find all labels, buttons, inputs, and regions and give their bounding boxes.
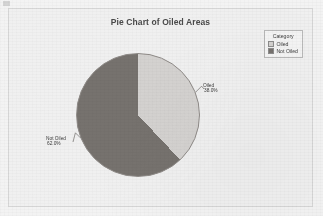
- scanned-page: Pie Chart of Oiled Areas Category Oiled …: [0, 0, 323, 216]
- data-label-oiled-percent: 38.0%: [203, 88, 218, 93]
- data-label-not-oiled-percent: 62.0%: [46, 141, 66, 146]
- scan-artifact-speck: [3, 1, 10, 6]
- data-label-oiled: Oiled 38.0%: [203, 83, 218, 94]
- data-label-oiled-name: Oiled: [203, 83, 214, 88]
- data-label-not-oiled: Not Oiled 62.0%: [46, 136, 66, 147]
- leader-lines: [9, 9, 313, 207]
- data-label-not-oiled-name: Not Oiled: [46, 136, 66, 141]
- chart-frame: Pie Chart of Oiled Areas Category Oiled …: [8, 8, 313, 207]
